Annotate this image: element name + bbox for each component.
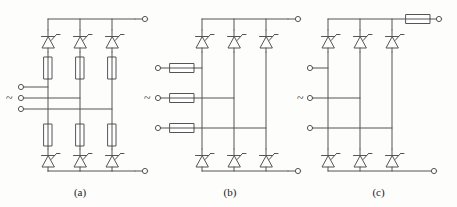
ac-symbol-c: ~ [297, 92, 304, 104]
fuse-b-3 [170, 124, 194, 133]
caption-c: (c) [300, 186, 457, 198]
thyristor-b-lower-3 [260, 149, 279, 171]
thyristor-a-lower-3 [106, 149, 125, 171]
fuse-a-lower-2 [76, 124, 84, 146]
fuse-a-upper-3 [108, 57, 116, 79]
fuse-b-2 [170, 94, 194, 103]
ac-terminal-a-2 [18, 95, 23, 100]
thyristor-a-upper-1 [42, 30, 61, 52]
ac-terminal-b-2 [155, 95, 160, 100]
circuit-figure: ~ ~ ~ (a) (b) (c) [0, 0, 457, 207]
caption-b: (b) [150, 186, 310, 198]
thyristor-b-upper-2 [228, 30, 247, 52]
dc-terminal-b-positive [295, 16, 300, 21]
ac-terminal-c-1 [307, 65, 312, 70]
circuit-c [307, 15, 441, 174]
fuse-a-lower-3 [108, 124, 116, 146]
thyristor-a-lower-2 [74, 149, 93, 171]
thyristor-c-lower-2 [354, 149, 373, 171]
thyristor-c-upper-2 [354, 30, 373, 52]
ac-terminal-c-3 [307, 125, 312, 130]
ac-terminal-a-1 [18, 84, 23, 89]
thyristor-c-lower-1 [322, 149, 341, 171]
thyristor-a-upper-3 [106, 30, 125, 52]
thyristor-b-lower-1 [196, 149, 215, 171]
ac-symbol-b: ~ [144, 92, 151, 104]
circuit-a [18, 16, 147, 173]
fuse-a-lower-1 [44, 124, 52, 146]
dc-terminal-a-negative [142, 168, 147, 173]
schematic-canvas [0, 0, 457, 207]
thyristor-c-upper-3 [386, 30, 405, 52]
dc-terminal-a-positive [142, 16, 147, 21]
fuse-b-1 [170, 64, 194, 73]
thyristor-c-upper-1 [322, 30, 341, 52]
dc-terminal-b-negative [295, 168, 300, 173]
circuit-b [155, 16, 300, 173]
fuse-a-upper-2 [76, 57, 84, 79]
caption-a: (a) [0, 186, 160, 198]
thyristor-b-upper-3 [260, 30, 279, 52]
thyristor-c-lower-3 [386, 149, 405, 171]
dc-terminal-c-negative [431, 168, 436, 173]
ac-terminal-b-3 [155, 125, 160, 130]
dc-terminal-c-positive [436, 16, 441, 21]
thyristor-a-upper-2 [74, 30, 93, 52]
ac-symbol-a: ~ [6, 92, 13, 104]
ac-terminal-c-2 [307, 95, 312, 100]
ac-terminal-a-3 [18, 106, 23, 111]
fuse-a-upper-1 [44, 57, 52, 79]
ac-terminal-b-1 [155, 65, 160, 70]
fuse-c-dc [406, 15, 430, 24]
thyristor-b-upper-1 [196, 30, 215, 52]
thyristor-a-lower-1 [42, 149, 61, 171]
thyristor-b-lower-2 [228, 149, 247, 171]
